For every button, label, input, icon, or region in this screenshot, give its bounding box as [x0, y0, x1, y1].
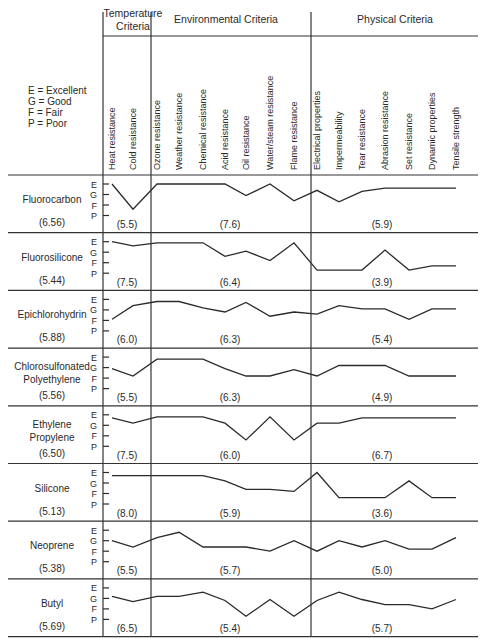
group-score: (5.0) — [372, 565, 393, 576]
material-name: Neoprene — [30, 540, 74, 551]
overall-score: (5.38) — [39, 563, 65, 574]
rating-profile-line — [112, 592, 456, 616]
rating-tick-label: P — [91, 269, 97, 279]
legend-item: P = Poor — [28, 118, 68, 129]
group-label: Physical Criteria — [357, 13, 433, 25]
rating-tick-label: G — [90, 421, 97, 431]
rating-legend: E = ExcellentG = GoodF = FairP = Poor — [28, 85, 87, 129]
overall-score: (5.88) — [39, 332, 65, 343]
rating-tick-label: P — [91, 500, 97, 510]
column-label: Chemical resistance — [198, 89, 208, 170]
column-label: Tensile strength — [451, 107, 461, 170]
material-name: Propylene — [29, 432, 74, 443]
column-label: Electrical properties — [312, 90, 322, 170]
material-row-butyl: EGFPButyl(5.69)(6.5)(5.4)(5.7) — [8, 583, 478, 636]
column-label: Tear resistance — [357, 109, 367, 170]
material-name: Ethylene — [33, 419, 72, 430]
rating-tick-label: F — [92, 489, 98, 499]
rating-tick-label: E — [91, 295, 97, 305]
rating-profile-line — [112, 184, 456, 209]
group-score: (3.9) — [372, 277, 393, 288]
group-score: (5.5) — [117, 392, 138, 403]
rating-profile-line — [112, 302, 456, 320]
material-row-chlorosulfonated-polyethylene: EGFPChlorosulfonatedPolyethylene(5.56)(5… — [8, 353, 478, 406]
rating-profile-line — [112, 242, 456, 270]
rating-tick-label: E — [91, 583, 97, 593]
material-name: Fluorosilicone — [21, 252, 83, 263]
rating-tick-label: G — [90, 536, 97, 546]
rating-tick-label: P — [91, 384, 97, 394]
rating-tick-label: F — [92, 201, 98, 211]
rating-tick-label: P — [91, 442, 97, 452]
column-label: Flame resistance — [289, 101, 299, 170]
column-label: Oil resistance — [241, 115, 251, 170]
material-name: Epichlorohydrin — [18, 309, 87, 320]
material-row-fluorosilicone: EGFPFluorosilicone(5.44)(7.5)(6.4)(3.9) — [8, 237, 478, 290]
overall-score: (6.50) — [39, 448, 65, 459]
material-name: Silicone — [34, 483, 69, 494]
rating-tick-label: F — [92, 316, 98, 326]
group-score: (6.3) — [220, 334, 241, 345]
legend-item: G = Good — [28, 96, 72, 107]
group-score: (5.9) — [372, 219, 393, 230]
group-score: (5.4) — [220, 623, 241, 634]
overall-score: (5.69) — [39, 621, 65, 632]
material-name: Chlorosulfonated — [14, 361, 90, 372]
elastomer-comparison-chart: TemperatureCriteriaEnvironmental Criteri… — [0, 0, 483, 639]
material-row-epichlorohydrin: EGFPEpichlorohydrin(5.88)(6.0)(6.3)(5.4) — [8, 295, 478, 348]
rating-tick-label: F — [92, 547, 98, 557]
group-score: (5.7) — [372, 623, 393, 634]
group-score: (7.6) — [220, 219, 241, 230]
overall-score: (5.44) — [39, 275, 65, 286]
material-name: Butyl — [41, 598, 63, 609]
rating-tick-label: G — [90, 363, 97, 373]
rating-tick-label: G — [90, 190, 97, 200]
rating-tick-label: F — [92, 374, 98, 384]
group-score: (6.7) — [372, 450, 393, 461]
group-score: (8.0) — [117, 508, 138, 519]
group-label: Temperature — [104, 7, 163, 19]
group-label: Environmental Criteria — [174, 13, 278, 25]
overall-score: (5.56) — [39, 390, 65, 401]
group-score: (5.5) — [117, 565, 138, 576]
column-label: Heat resistance — [107, 107, 117, 170]
rating-tick-label: E — [91, 237, 97, 247]
group-score: (6.3) — [220, 392, 241, 403]
legend-item: E = Excellent — [28, 85, 87, 96]
rating-tick-label: E — [91, 410, 97, 420]
column-label: Water/steam resistance — [265, 76, 275, 170]
rating-tick-label: P — [91, 557, 97, 567]
rating-tick-label: E — [91, 526, 97, 536]
material-row-silicone: EGFPSilicone(5.13)(8.0)(5.9)(3.6) — [8, 468, 478, 521]
group-label: Criteria — [116, 20, 150, 32]
column-label: Weather resistance — [174, 93, 184, 170]
material-name: Polyethylene — [23, 374, 81, 385]
rating-tick-label: E — [91, 353, 97, 363]
rating-profile-line — [112, 417, 456, 440]
group-score: (7.5) — [117, 277, 138, 288]
rating-tick-label: G — [90, 594, 97, 604]
group-score: (3.6) — [372, 508, 393, 519]
column-label: Cold resistance — [128, 108, 138, 170]
group-score: (7.5) — [117, 450, 138, 461]
group-score: (4.9) — [372, 392, 393, 403]
group-score: (6.0) — [117, 334, 138, 345]
rating-tick-label: E — [91, 180, 97, 190]
rating-tick-label: E — [91, 468, 97, 478]
group-score: (6.5) — [117, 623, 138, 634]
group-score: (5.4) — [372, 334, 393, 345]
rating-profile-line — [112, 532, 456, 551]
group-score: (6.4) — [220, 277, 241, 288]
rating-tick-label: F — [92, 258, 98, 268]
column-label: Dynamic properties — [427, 92, 437, 170]
material-rows: EGFPFluorocarbon(6.56)(5.5)(7.6)(5.9)EGF… — [8, 180, 478, 637]
material-row-fluorocarbon: EGFPFluorocarbon(6.56)(5.5)(7.6)(5.9) — [8, 180, 478, 233]
overall-score: (5.13) — [39, 506, 65, 517]
group-score: (6.0) — [220, 450, 241, 461]
material-name: Fluorocarbon — [23, 194, 82, 205]
rating-tick-label: F — [92, 604, 98, 614]
column-label: Abrasion resistance — [380, 91, 390, 170]
column-label: Impermeability — [334, 111, 344, 170]
material-row-neoprene: EGFPNeoprene(5.38)(5.5)(5.7)(5.0) — [8, 526, 478, 579]
rating-tick-label: P — [91, 615, 97, 625]
